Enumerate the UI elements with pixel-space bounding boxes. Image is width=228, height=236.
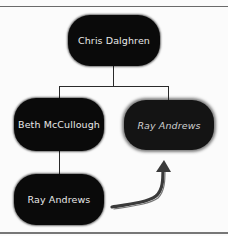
- connector-root-stem: [113, 66, 114, 86]
- node-label: Ray Andrews: [137, 120, 200, 131]
- node-beth-mccullough[interactable]: Beth McCullough: [14, 98, 104, 151]
- node-label: Beth McCullough: [18, 119, 100, 130]
- connector-left-to-bottom: [59, 151, 60, 174]
- connector-left-drop: [59, 86, 60, 98]
- node-label: Ray Andrews: [28, 194, 91, 205]
- node-ray-andrews[interactable]: Ray Andrews: [14, 174, 104, 225]
- move-arrow-icon: [108, 158, 178, 218]
- node-ray-andrews-target[interactable]: Ray Andrews: [124, 100, 214, 150]
- connector-right-drop: [168, 86, 169, 100]
- node-chris-dalghren[interactable]: Chris Dalghren: [68, 15, 160, 66]
- node-label: Chris Dalghren: [78, 35, 150, 46]
- top-border-rule: [0, 6, 228, 7]
- bottom-border-rule: [0, 232, 228, 234]
- connector-horizontal: [59, 86, 169, 87]
